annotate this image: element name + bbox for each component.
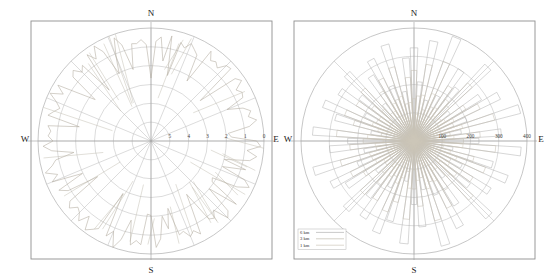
right-legend-label: 6 km [300,230,310,235]
left-tick-label: 2 [225,133,228,139]
figure-canvas: N S E W 543210 N S E W 100200300400 6 km… [0,0,559,278]
right-tick-label: 100 [438,133,446,139]
right-tick-label: 300 [495,133,503,139]
left-rose-svg: N S E W 543210 [0,0,280,278]
left-rose-panel: N S E W 543210 [0,0,280,278]
right-legend: 6 km3 km1 km [298,229,346,250]
right-legend-label: 3 km [300,236,310,241]
right-tick-label: 400 [523,133,531,139]
right-cardinal-north: N [411,8,418,18]
right-rose-svg: N S E W 100200300400 6 km3 km1 km [280,0,559,278]
right-rose-panel: N S E W 100200300400 6 km3 km1 km [280,0,559,278]
left-cardinal-south: S [148,265,153,275]
left-tick-label: 5 [169,133,172,139]
left-cardinal-north: N [148,8,155,18]
right-cardinal-east: E [538,134,544,144]
right-cardinal-west: W [284,134,293,144]
left-tick-label: 0 [263,133,266,139]
right-legend-label: 1 km [300,243,310,248]
left-tick-label: 1 [244,133,247,139]
left-cardinal-west: W [21,134,30,144]
right-tick-label: 200 [467,133,475,139]
left-tick-label: 3 [206,133,209,139]
right-cardinal-south: S [411,265,416,275]
left-panel-background [0,0,280,278]
left-cardinal-east: E [273,134,279,144]
left-tick-label: 4 [187,133,190,139]
